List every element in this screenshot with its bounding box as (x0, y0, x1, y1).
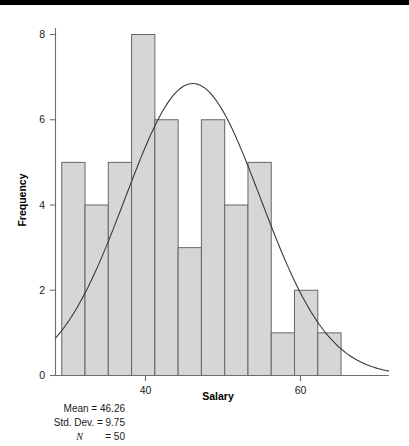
histogram-bar (248, 162, 271, 375)
y-axis-ticks (50, 35, 56, 376)
y-tick-label-0: 0 (39, 369, 45, 381)
histogram-bar (178, 248, 201, 376)
histogram-bar (225, 205, 248, 376)
y-tick-label-4: 4 (39, 199, 45, 211)
histogram-bar (85, 205, 108, 376)
histogram-bar (201, 120, 224, 376)
x-axis-ticks (146, 376, 301, 382)
histogram-bar (155, 120, 178, 376)
x-tick-label-60: 60 (295, 384, 307, 396)
y-tick-label-8: 8 (39, 28, 45, 40)
histogram-bar (132, 35, 155, 376)
histogram-figure: 0 2 4 6 8 Frequency 40 60 Salary Mean = … (0, 0, 409, 446)
stat-std-dev: Std. Dev. = 9.75 (54, 417, 126, 428)
x-tick-label-40: 40 (140, 384, 152, 396)
histogram-bar (62, 162, 85, 375)
stat-n: N = 50 (75, 431, 125, 442)
y-tick-label-6: 6 (39, 113, 45, 125)
stat-n-value: = 50 (105, 431, 125, 442)
y-axis-title: Frequency (16, 173, 28, 226)
stat-n-symbol: N (75, 431, 84, 442)
histogram-bar (271, 333, 294, 376)
histogram-bar (318, 333, 341, 376)
y-tick-label-2: 2 (39, 284, 45, 296)
x-axis-title: Salary (202, 390, 234, 402)
histogram-bar (108, 162, 131, 375)
stat-mean: Mean = 46.26 (64, 403, 126, 414)
